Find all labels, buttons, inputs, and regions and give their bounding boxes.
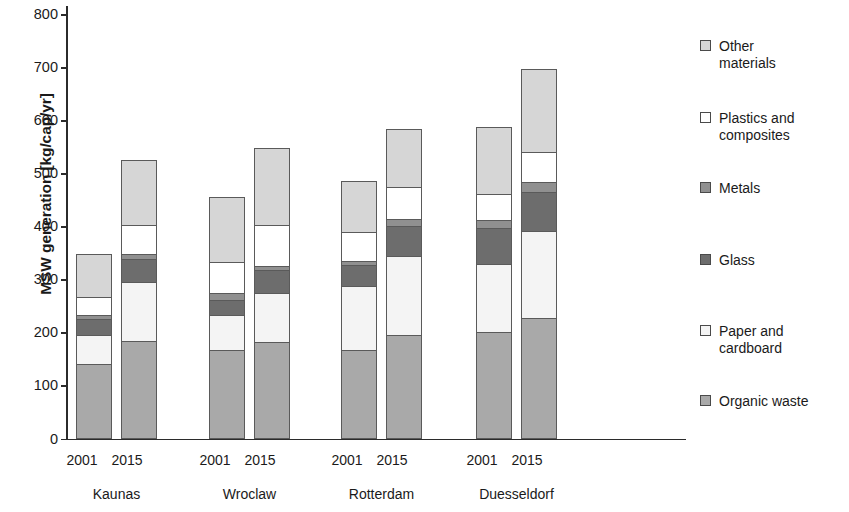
legend-item-organic-waste[interactable]: Organic waste xyxy=(700,393,808,410)
y-axis-tick-labels: 8007006005004003002001000 xyxy=(14,0,58,512)
legend-item-other-materials[interactable]: Other materials xyxy=(700,38,776,71)
x-axis-line xyxy=(66,439,686,441)
bar-segment-paper-and-cardboard[interactable] xyxy=(521,231,557,319)
legend-swatch-icon xyxy=(700,325,711,336)
bar-segment-other-materials[interactable] xyxy=(76,254,112,299)
legend-swatch-icon xyxy=(700,40,711,51)
plot-area xyxy=(66,0,686,440)
y-tick-mark xyxy=(61,332,66,334)
bar-segment-paper-and-cardboard[interactable] xyxy=(476,264,512,333)
bar-segment-organic-waste[interactable] xyxy=(76,364,112,438)
bar-segment-other-materials[interactable] xyxy=(521,69,557,153)
bar-segment-organic-waste[interactable] xyxy=(254,342,290,439)
legend-label: Organic waste xyxy=(719,393,808,410)
bar-segment-glass[interactable] xyxy=(341,265,377,287)
bar-segment-organic-waste[interactable] xyxy=(476,332,512,438)
y-tick-label: 500 xyxy=(14,166,58,181)
bar-segment-organic-waste[interactable] xyxy=(341,350,377,439)
x-tick-label-year: 2015 xyxy=(97,452,157,468)
bar-segment-plastics-and-composites[interactable] xyxy=(386,187,422,220)
legend-label: Glass xyxy=(719,252,755,269)
y-tick-mark xyxy=(61,67,66,69)
bar-duesseldorf-2001[interactable] xyxy=(476,127,512,438)
y-tick-mark xyxy=(61,439,66,441)
y-tick-label: 800 xyxy=(14,7,58,22)
x-tick-label-year: 2015 xyxy=(230,452,290,468)
bar-segment-plastics-and-composites[interactable] xyxy=(254,225,290,267)
legend-label: Metals xyxy=(719,180,760,197)
y-tick-label: 400 xyxy=(14,219,58,234)
bar-segment-paper-and-cardboard[interactable] xyxy=(254,293,290,343)
bar-segment-paper-and-cardboard[interactable] xyxy=(76,335,112,365)
legend-swatch-icon xyxy=(700,112,711,123)
y-tick-mark xyxy=(61,14,66,16)
legend-swatch-icon xyxy=(700,182,711,193)
bar-segment-glass[interactable] xyxy=(76,319,112,336)
bar-segment-glass[interactable] xyxy=(386,226,422,258)
bar-segment-paper-and-cardboard[interactable] xyxy=(341,286,377,351)
x-group-label-kaunas: Kaunas xyxy=(47,486,187,502)
y-tick-mark xyxy=(61,279,66,281)
bar-segment-glass[interactable] xyxy=(521,192,557,232)
legend-item-plastics-and-composites[interactable]: Plastics and composites xyxy=(700,110,794,143)
legend-swatch-icon xyxy=(700,254,711,265)
y-tick-label: 700 xyxy=(14,60,58,75)
bar-segment-plastics-and-composites[interactable] xyxy=(209,262,245,294)
bar-segment-paper-and-cardboard[interactable] xyxy=(209,315,245,351)
y-tick-mark xyxy=(61,120,66,122)
x-group-label-duesseldorf: Duesseldorf xyxy=(447,486,587,502)
y-tick-label: 600 xyxy=(14,113,58,128)
legend-label: Other materials xyxy=(719,38,776,71)
chart-legend: Other materialsPlastics and compositesMe… xyxy=(700,0,849,440)
legend-item-metals[interactable]: Metals xyxy=(700,180,760,197)
bar-segment-organic-waste[interactable] xyxy=(209,350,245,439)
bar-segment-other-materials[interactable] xyxy=(386,129,422,187)
bar-segment-other-materials[interactable] xyxy=(341,181,377,233)
bar-segment-glass[interactable] xyxy=(121,259,157,284)
x-tick-label-year: 2015 xyxy=(497,452,557,468)
bar-segment-organic-waste[interactable] xyxy=(121,341,157,438)
legend-label: Plastics and composites xyxy=(719,110,794,143)
bar-segment-paper-and-cardboard[interactable] xyxy=(386,256,422,336)
bar-segment-paper-and-cardboard[interactable] xyxy=(121,282,157,342)
bar-segment-glass[interactable] xyxy=(209,300,245,316)
msw-generation-stacked-bar-chart: MSW generation [kg/cap/yr] 8007006005004… xyxy=(0,0,849,512)
bar-duesseldorf-2015[interactable] xyxy=(521,69,557,438)
bar-rotterdam-2015[interactable] xyxy=(386,129,422,438)
y-tick-mark xyxy=(61,226,66,228)
x-group-label-rotterdam: Rotterdam xyxy=(312,486,452,502)
x-group-label-wroclaw: Wroclaw xyxy=(180,486,320,502)
bar-wroclaw-2001[interactable] xyxy=(209,197,245,439)
y-tick-label: 300 xyxy=(14,272,58,287)
legend-item-glass[interactable]: Glass xyxy=(700,252,755,269)
legend-swatch-icon xyxy=(700,395,711,406)
bar-segment-glass[interactable] xyxy=(254,270,290,294)
bar-segment-plastics-and-composites[interactable] xyxy=(476,194,512,221)
bar-segment-plastics-and-composites[interactable] xyxy=(341,232,377,261)
y-tick-mark xyxy=(61,385,66,387)
bar-kaunas-2015[interactable] xyxy=(121,160,157,439)
bar-segment-organic-waste[interactable] xyxy=(521,318,557,439)
bar-segment-other-materials[interactable] xyxy=(254,148,290,226)
bar-kaunas-2001[interactable] xyxy=(76,254,112,439)
y-axis-line xyxy=(66,6,68,439)
bar-segment-plastics-and-composites[interactable] xyxy=(76,297,112,316)
y-tick-label: 0 xyxy=(14,432,58,447)
bar-segment-glass[interactable] xyxy=(476,228,512,265)
bar-segment-plastics-and-composites[interactable] xyxy=(121,225,157,255)
legend-item-paper-and-cardboard[interactable]: Paper and cardboard xyxy=(700,323,784,356)
bar-wroclaw-2015[interactable] xyxy=(254,148,290,439)
bar-segment-organic-waste[interactable] xyxy=(386,335,422,438)
bar-segment-other-materials[interactable] xyxy=(121,160,157,226)
y-tick-label: 200 xyxy=(14,325,58,340)
bar-rotterdam-2001[interactable] xyxy=(341,181,377,438)
y-tick-mark xyxy=(61,173,66,175)
bar-segment-other-materials[interactable] xyxy=(476,127,512,195)
bar-segment-plastics-and-composites[interactable] xyxy=(521,152,557,182)
bar-segment-other-materials[interactable] xyxy=(209,197,245,263)
y-tick-label: 100 xyxy=(14,378,58,393)
x-tick-label-year: 2015 xyxy=(362,452,422,468)
legend-label: Paper and cardboard xyxy=(719,323,784,356)
